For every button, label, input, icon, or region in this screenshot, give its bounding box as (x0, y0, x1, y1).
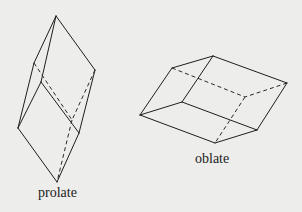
prolate-edge (18, 128, 57, 182)
oblate-rhombohedron (140, 56, 287, 143)
prolate-hidden-edge (57, 120, 72, 182)
oblate-edge (140, 102, 182, 115)
oblate-hidden-edge (245, 83, 287, 97)
oblate-edge (182, 102, 257, 130)
oblate-edge (140, 115, 215, 143)
prolate-label: prolate (38, 186, 77, 200)
prolate-edge (79, 70, 95, 133)
prolate-edge (41, 82, 79, 133)
prolate-edge (18, 82, 41, 128)
prolate-edge (34, 16, 56, 63)
prolate-hidden-edge (72, 70, 95, 120)
prolate-edge (57, 133, 79, 182)
oblate-hidden-edge (172, 68, 245, 97)
oblate-edge (215, 130, 257, 143)
oblate-label: oblate (195, 152, 229, 166)
prolate-edge (56, 16, 95, 70)
prolate-hidden-edge (34, 63, 72, 120)
prolate-edge (18, 63, 34, 128)
prolate-rhombohedron (18, 16, 95, 182)
oblate-edge (213, 56, 287, 83)
prolate-edge (41, 16, 56, 82)
oblate-edge (182, 56, 213, 102)
diagram-canvas: prolate oblate (0, 0, 302, 212)
oblate-edge (140, 68, 172, 115)
oblate-edge (172, 56, 213, 68)
oblate-edge (257, 83, 287, 130)
rhombohedra-drawing (0, 0, 302, 212)
